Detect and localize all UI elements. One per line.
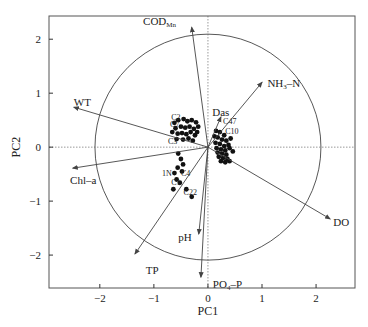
sample-point	[170, 130, 175, 135]
loading-arrow	[199, 147, 208, 234]
sample-point	[223, 160, 228, 165]
sample-point	[186, 136, 191, 141]
loading-label: Das	[212, 106, 229, 118]
sample-point	[175, 131, 180, 136]
sample-point	[175, 165, 180, 170]
y-tick-label: −1	[29, 195, 41, 207]
sample-point	[219, 159, 224, 164]
x-tick-label: 2	[313, 292, 319, 304]
loading-arrow	[73, 147, 208, 168]
sample-point	[213, 140, 218, 145]
sample-point	[181, 162, 186, 167]
sample-point	[220, 137, 225, 142]
sample-point	[172, 171, 177, 176]
loading-label: CODMn	[143, 15, 176, 29]
sample-point	[196, 124, 201, 129]
sample-point	[171, 187, 176, 192]
sample-point	[189, 118, 194, 123]
sample-label: C4	[181, 169, 190, 178]
sample-point	[228, 136, 233, 141]
sample-point	[184, 132, 189, 137]
sample-point	[179, 157, 184, 162]
sample-label: C10	[225, 127, 238, 136]
loading-label: TP	[146, 264, 159, 276]
y-tick-label: −2	[29, 249, 41, 261]
x-tick-label: −2	[94, 292, 106, 304]
loading-label: Chl–a	[70, 174, 96, 186]
loading-arrows: CODMnNH3–NDasWTChl–aTPpHPO4–PDO	[70, 15, 349, 292]
y-tick-label: 2	[36, 33, 42, 45]
loading-label: NH3–N	[267, 77, 300, 91]
sample-point	[180, 131, 185, 136]
pca-biplot: C2C7C31NC1C4C22C47C10 CODMnNH3–NDasWTChl…	[0, 0, 368, 327]
sample-label: C22	[184, 188, 197, 197]
sample-point	[216, 154, 221, 159]
x-tick-label: −1	[148, 292, 160, 304]
loading-label: WT	[74, 96, 91, 108]
x-tick-label: 0	[205, 292, 211, 304]
loading-arrow	[135, 147, 208, 254]
sample-point	[187, 124, 192, 129]
sample-label: C47	[223, 117, 236, 126]
sample-point	[195, 130, 200, 135]
y-axis-label: PC2	[9, 137, 23, 158]
sample-point	[188, 130, 193, 135]
x-axis-label: PC1	[198, 304, 219, 318]
sample-point	[194, 120, 199, 125]
loading-arrow	[208, 147, 330, 219]
loading-label: DO	[333, 216, 349, 228]
x-tick-label: 1	[259, 292, 265, 304]
y-tick-label: 1	[36, 87, 42, 99]
sample-point	[183, 125, 188, 130]
sample-point	[185, 119, 190, 124]
loading-label: pH	[178, 231, 192, 243]
sample-label: C3	[168, 137, 177, 146]
sample-point	[214, 146, 219, 151]
loading-label: PO4–P	[213, 278, 242, 292]
sample-point	[217, 142, 222, 147]
axis-ticks: −2−1012−2−1012	[29, 33, 319, 304]
loading-arrow	[201, 147, 208, 277]
sample-point	[224, 138, 229, 143]
sample-point	[230, 149, 235, 154]
y-tick-label: 0	[36, 141, 42, 153]
sample-label: C1	[171, 178, 180, 187]
sample-label: 1N	[162, 169, 172, 178]
sample-label: C7	[170, 120, 179, 129]
